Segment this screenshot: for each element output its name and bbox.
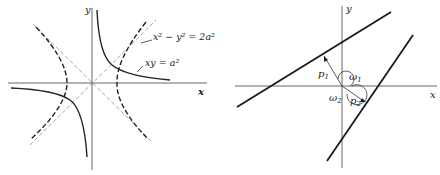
leader-xy <box>137 66 143 72</box>
figure: y x x² − y² = 2a² xy = a² y x p1 ω1 ω2 p… <box>0 0 440 175</box>
asymptote-y-eq-x <box>30 20 156 145</box>
p1-label: p1 <box>318 68 329 81</box>
hyperbola-right-branch <box>117 22 148 139</box>
y-axis-label: y <box>84 4 91 15</box>
hyperbola-label: x² − y² = 2a² <box>153 31 215 42</box>
y-axis-label: y <box>345 3 352 14</box>
omega1-label: ω1 <box>349 71 362 84</box>
x-axis-label: x <box>197 86 205 97</box>
hyperbola-left-branch <box>30 27 67 140</box>
right-diagram: y x p1 ω1 ω2 p2 <box>235 3 437 168</box>
xy-label: xy = a² <box>145 57 179 68</box>
omega2-label: ω2 <box>329 92 342 105</box>
p2-label: p2 <box>350 95 361 108</box>
line-1 <box>237 12 391 107</box>
xy-hyperbola-q1 <box>97 10 170 80</box>
xy-hyperbola-q3 <box>11 88 87 157</box>
x-axis-label: x <box>430 89 436 100</box>
leader-hyperbola <box>141 40 152 43</box>
left-diagram: y x x² − y² = 2a² xy = a² <box>8 4 215 170</box>
